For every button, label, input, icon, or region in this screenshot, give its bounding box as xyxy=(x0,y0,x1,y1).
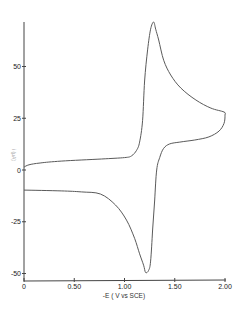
y-tick-label: -50 xyxy=(11,270,21,277)
y-tick-label: 50 xyxy=(13,63,21,70)
y-axis-label: i (μA) xyxy=(11,149,17,161)
x-tick-label: 0 xyxy=(22,283,26,290)
y-tick-label: 25 xyxy=(13,115,21,122)
cv-curve xyxy=(24,22,225,273)
y-tick-label: -25 xyxy=(11,218,21,225)
x-axis-label: -E ( V vs SCE) xyxy=(103,292,145,300)
cyclic-voltammogram-chart: 50250-25-50 00.501.001.502.00 -E ( V vs … xyxy=(0,0,248,309)
y-tick-label: 0 xyxy=(17,167,21,174)
x-tick-label: 2.00 xyxy=(218,283,232,290)
x-tick-label: 1.50 xyxy=(168,283,182,290)
x-tick-label: 1.00 xyxy=(118,283,132,290)
x-tick-label: 0.50 xyxy=(67,283,81,290)
plot-area: 50250-25-50 00.501.001.502.00 -E ( V vs … xyxy=(11,22,232,300)
